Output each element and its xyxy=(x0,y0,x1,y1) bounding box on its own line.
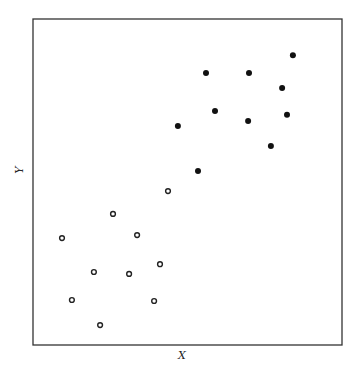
filled-circle-point xyxy=(175,123,181,129)
filled-circle-point xyxy=(195,168,201,174)
open-circle-point xyxy=(135,233,140,238)
open-circle-point xyxy=(158,262,163,267)
scatter-plot: X Y xyxy=(0,0,357,376)
plot-frame xyxy=(33,19,342,345)
open-circle-point xyxy=(127,272,132,277)
data-points xyxy=(60,52,296,327)
open-circle-point xyxy=(92,270,97,275)
filled-circle-point xyxy=(245,118,251,124)
filled-circle-point xyxy=(284,112,290,118)
filled-circle-point xyxy=(246,70,252,76)
open-circle-point xyxy=(70,298,75,303)
filled-circle-point xyxy=(268,143,274,149)
open-circle-point xyxy=(166,189,171,194)
open-circle-point xyxy=(98,323,103,328)
filled-circle-point xyxy=(212,108,218,114)
filled-circle-point xyxy=(279,85,285,91)
x-axis-label: X xyxy=(177,349,187,362)
open-circle-point xyxy=(111,212,116,217)
open-circle-point xyxy=(152,299,157,304)
open-circle-point xyxy=(60,236,65,241)
filled-circle-point xyxy=(203,70,209,76)
y-axis-label: Y xyxy=(13,165,26,174)
filled-circle-point xyxy=(290,52,296,58)
